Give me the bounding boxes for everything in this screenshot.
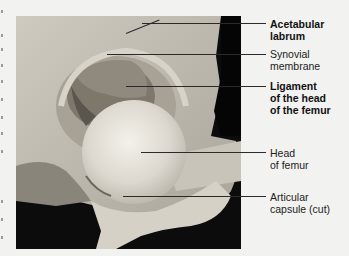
label-line: Articular [270, 191, 330, 203]
label-acetabular-labrum: Acetabular labrum [270, 18, 324, 42]
label-line: Acetabular [270, 18, 324, 30]
label-line: labrum [270, 30, 324, 42]
label-line: of the head [270, 92, 331, 104]
hip-joint-photo [16, 16, 241, 249]
label-line: capsule (cut) [270, 203, 330, 215]
label-synovial-membrane: Synovial membrane [270, 48, 320, 72]
leader-line-articular-capsule [123, 196, 266, 197]
label-line: of femur [270, 159, 309, 171]
label-ligament-head-femur: Ligament of the head of the femur [270, 80, 331, 116]
leader-line-acetabular-labrum [142, 23, 266, 24]
page-margin-marks [0, 0, 6, 256]
leader-line-synovial-membrane [107, 54, 266, 55]
label-line: Ligament [270, 80, 331, 92]
label-head-of-femur: Head of femur [270, 147, 309, 171]
leader-line-ligament-head-femur [126, 86, 266, 87]
label-line: of the femur [270, 104, 331, 116]
label-line: Head [270, 147, 309, 159]
label-line: membrane [270, 60, 320, 72]
label-line: Synovial [270, 48, 320, 60]
label-articular-capsule: Articular capsule (cut) [270, 191, 330, 215]
leader-line-head-of-femur [141, 152, 266, 153]
